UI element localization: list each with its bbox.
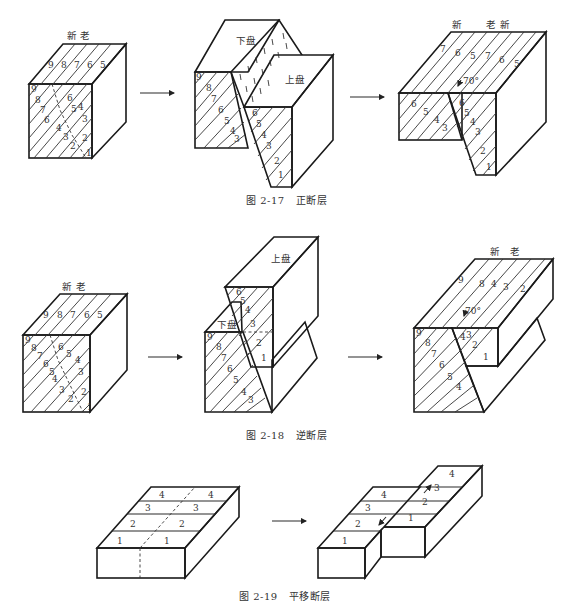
bed-number-label: 4 <box>456 382 462 392</box>
bed-number-label: 3 <box>466 330 472 340</box>
bed-number-label: 6 <box>227 364 233 374</box>
bed-number-label: 1 <box>342 536 348 546</box>
bed-number-label: 3 <box>475 127 481 137</box>
bed-number-label: 1 <box>261 353 267 363</box>
label-new: 新 <box>490 246 500 257</box>
bed-number-label: 2 <box>520 284 526 294</box>
bed-number-label: 4 <box>241 387 247 397</box>
bed-number-label: 7 <box>485 51 491 61</box>
bed-number-label: 2 <box>81 387 87 397</box>
bed-number-label: 2 <box>68 394 74 404</box>
bed-number-label: 7 <box>431 349 437 359</box>
bed-number-label: 3 <box>434 483 440 493</box>
bed-number-label: 2 <box>422 497 428 507</box>
dip-angle: 70° <box>465 306 481 316</box>
bed-number-label: 4 <box>245 305 251 315</box>
bed-number-label: 7 <box>440 44 446 54</box>
bed-number-label: 6 <box>411 99 417 109</box>
bed-number-label: 4 <box>78 102 84 112</box>
bed-number-label: 5 <box>97 310 103 320</box>
fig-2-17-before-block: 新 老 9 8 7 6 5 9 8 7 6 6 5 4 3 4 3 2 2 1 <box>29 30 126 158</box>
bed-number-label: 7 <box>70 310 76 320</box>
bed-number-label: 4 <box>56 123 62 133</box>
bed-number-label: 5 <box>100 60 106 70</box>
label-hanging-wall: 上盘 <box>285 74 305 85</box>
bed-number-label: 5 <box>233 375 239 385</box>
bed-number-label: 3 <box>250 319 256 329</box>
bed-number-label: 3 <box>193 503 199 513</box>
bed-number-label: 4 <box>470 117 476 127</box>
bed-number-label: 3 <box>503 282 509 292</box>
label-footwall: 下盘 <box>217 319 237 330</box>
bed-number-label: 1 <box>408 513 414 523</box>
bed-number-label: 8 <box>479 279 485 289</box>
bed-number-label: 4 <box>159 490 165 500</box>
bed-number-label: 8 <box>206 83 212 93</box>
bed-number-label: 7 <box>211 94 217 104</box>
label-new: 新 <box>500 19 510 30</box>
bed-number-label: 4 <box>381 490 387 500</box>
bed-number-label: 9 <box>48 60 54 70</box>
bed-number-label: 8 <box>61 60 67 70</box>
bed-number-label: 7 <box>74 60 80 70</box>
bed-number-label: 5 <box>256 119 262 129</box>
bed-number-label: 3 <box>234 134 240 144</box>
label-old: 老 <box>76 281 86 292</box>
dip-angle: 70° <box>463 76 479 86</box>
caption-fig-2-17: 图 2-17 正断层 <box>246 192 327 207</box>
bed-number-label: 9 <box>458 275 464 285</box>
bed-number-label: 6 <box>439 360 445 370</box>
bed-number-label: 2 <box>70 141 76 151</box>
fig-2-18-before-block: 新 老 9 8 7 6 5 9 8 7 6 5 6 5 4 3 4 3 2 2 … <box>23 281 127 412</box>
bed-number-label: 6 <box>252 108 258 118</box>
bed-number-label: 5 <box>423 107 429 117</box>
fig-2-18-eroded-block: 新 老 9 8 4 3 2 70° 9 8 7 6 5 4 4 3 2 1 <box>414 246 553 412</box>
bed-number-label: 3 <box>78 367 84 377</box>
bed-number-label: 2 <box>274 156 280 166</box>
bed-number-label: 5 <box>66 349 72 359</box>
bed-number-label: 3 <box>145 503 151 513</box>
bed-number-label: 2 <box>480 146 486 156</box>
label-old: 老 <box>510 246 520 257</box>
bed-number-label: 2 <box>355 519 361 529</box>
bed-number-label: 9 <box>207 332 213 342</box>
bed-number-label: 1 <box>87 402 93 412</box>
label-new: 新 <box>67 30 77 41</box>
bed-number-label: 9 <box>43 310 49 320</box>
bed-number-label: 1 <box>164 536 170 546</box>
bed-number-label: 4 <box>52 374 58 384</box>
bed-number-label: 7 <box>221 353 227 363</box>
bed-number-label: 5 <box>71 104 77 114</box>
fig-2-19-displaced-block: 4 3 2 1 4 3 2 1 <box>318 466 482 578</box>
bed-number-label: 3 <box>63 132 69 142</box>
bed-number-label: 3 <box>442 123 448 133</box>
bed-number-label: 6 <box>44 115 50 125</box>
bed-number-label: 6 <box>87 60 93 70</box>
bed-number-label: 2 <box>179 519 185 529</box>
bed-number-label: 2 <box>472 340 478 350</box>
bed-number-label: 4 <box>208 490 214 500</box>
bed-number-label: 2 <box>82 133 88 143</box>
caption-fig-2-18: 图 2-18 逆断层 <box>246 427 327 442</box>
bed-number-label: 1 <box>486 162 492 172</box>
bed-number-label: 5 <box>447 372 453 382</box>
bed-number-label: 3 <box>365 503 371 513</box>
label-old: 老 <box>486 19 496 30</box>
fig-2-19-before-block: 4 4 3 3 2 2 1 1 <box>97 487 239 578</box>
bed-number-label: 6 <box>84 310 90 320</box>
bed-number-label: 8 <box>216 342 222 352</box>
bed-number-label: 4 <box>449 469 455 479</box>
bed-number-label: 6 <box>58 342 64 352</box>
bed-number-label: 1 <box>483 352 489 362</box>
bed-number-label: 8 <box>35 95 41 105</box>
bed-number-label: 6 <box>218 105 224 115</box>
bed-number-label: 6 <box>455 48 461 58</box>
fault-diagrams: 新 老 9 8 7 6 5 9 8 7 6 6 5 4 3 4 3 2 2 1 <box>0 0 578 611</box>
bed-number-label: 2 <box>256 338 262 348</box>
bed-number-label: 3 <box>59 385 65 395</box>
bed-number-label: 9 <box>31 84 37 94</box>
label-old: 老 <box>80 30 90 41</box>
bed-number-label: 4 <box>491 279 497 289</box>
bed-number-label: 3 <box>82 114 88 124</box>
bed-number-label: 5 <box>514 59 520 69</box>
